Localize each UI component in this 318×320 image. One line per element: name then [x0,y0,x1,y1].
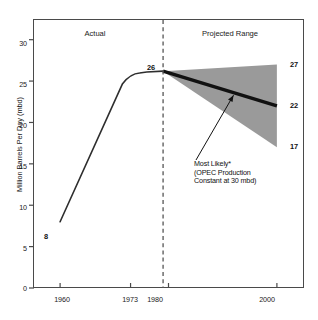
actual-production-line [60,71,163,222]
oil-production-projection-chart: Million Barrels Per Day (mbd) 30 25 20 1… [0,0,318,320]
chart-vector-layer [0,0,318,320]
